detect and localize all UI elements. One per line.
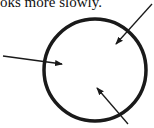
arrow-left-icon: [3, 56, 62, 64]
circle-diagram: [0, 0, 154, 128]
circle-icon: [44, 19, 146, 121]
